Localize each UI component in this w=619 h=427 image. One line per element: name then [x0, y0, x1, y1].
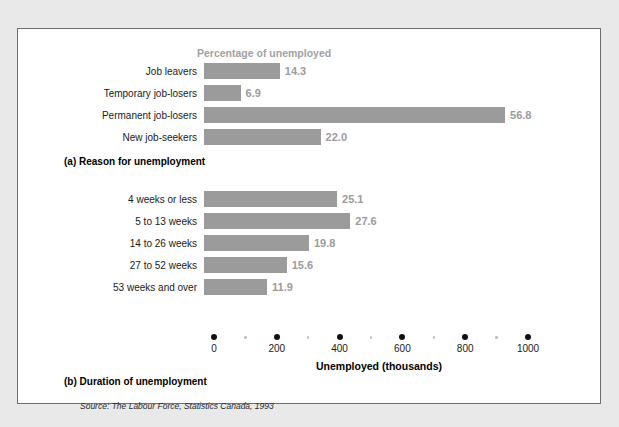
bar-fill: [204, 85, 241, 101]
bar-row: Temporary job-losers6.9: [89, 82, 559, 104]
bar-row: 53 weeks and over11.9: [89, 276, 559, 298]
bar-value-label: 27.6: [350, 213, 376, 229]
reason-label: New job-seekers: [89, 132, 204, 143]
axis-tick-minor: [495, 336, 498, 339]
source-note: Source: The Labour Force, Statistics Can…: [80, 401, 274, 411]
bar-value-label: 56.8: [505, 107, 531, 123]
reason-label: Temporary job-losers: [89, 88, 204, 99]
axis-tick-label: 800: [457, 343, 474, 354]
bar-fill: [204, 107, 505, 123]
duration-label: 4 weeks or less: [89, 194, 204, 205]
axis-tick-minor: [244, 336, 247, 339]
reason-label: Permanent job-losers: [89, 110, 204, 121]
figure-panel: Percentage of unemployed Job leavers14.3…: [17, 28, 601, 404]
axis-tick-label: 0: [211, 343, 217, 354]
bar-fill: [204, 279, 267, 295]
chart-b-duration-of-unemployment: 4 weeks or less25.15 to 13 weeks27.614 t…: [89, 188, 559, 298]
axis-tick-major: [274, 334, 280, 340]
bar-track: 22.0: [204, 126, 559, 148]
bar-row: Permanent job-losers56.8: [89, 104, 559, 126]
axis-tick-major: [462, 334, 468, 340]
bar-fill: [204, 191, 337, 207]
axis-tick-minor: [307, 336, 310, 339]
bar-track: 25.1: [204, 188, 559, 210]
duration-label: 53 weeks and over: [89, 282, 204, 293]
axis-tick-minor: [370, 336, 373, 339]
bar-value-label: 25.1: [337, 191, 363, 207]
bar-fill: [204, 257, 287, 273]
caption-b: (b) Duration of unemployment: [64, 376, 207, 387]
chart-a-reason-for-unemployment: Job leavers14.3Temporary job-losers6.9Pe…: [89, 60, 559, 148]
axis-tick-label: 600: [394, 343, 411, 354]
bar-track: 6.9: [204, 82, 559, 104]
bar-track: 19.8: [204, 232, 559, 254]
axis-tick-major: [211, 334, 217, 340]
bar-fill: [204, 129, 321, 145]
bar-value-label: 11.9: [267, 279, 293, 295]
bar-row: 27 to 52 weeks15.6: [89, 254, 559, 276]
reason-label: Job leavers: [89, 66, 204, 77]
bar-value-label: 15.6: [287, 257, 313, 273]
x-axis-title: Unemployed (thousands): [214, 360, 544, 372]
axis-tick-label: 1000: [517, 343, 539, 354]
axis-tick-major: [525, 334, 531, 340]
bar-row: New job-seekers22.0: [89, 126, 559, 148]
bar-fill: [204, 213, 350, 229]
bar-track: 27.6: [204, 210, 559, 232]
bar-track: 14.3: [204, 60, 559, 82]
bar-value-label: 19.8: [309, 235, 335, 251]
bar-track: 11.9: [204, 276, 559, 298]
axis-tick-label: 200: [268, 343, 285, 354]
axis-tick-minor: [433, 336, 436, 339]
duration-label: 27 to 52 weeks: [89, 260, 204, 271]
caption-a: (a) Reason for unemployment: [64, 156, 205, 167]
bar-row: Job leavers14.3: [89, 60, 559, 82]
bar-track: 15.6: [204, 254, 559, 276]
axis-tick-label: 400: [331, 343, 348, 354]
bar-value-label: 14.3: [280, 63, 306, 79]
bar-row: 14 to 26 weeks19.8: [89, 232, 559, 254]
bar-track: 56.8: [204, 104, 559, 126]
duration-label: 14 to 26 weeks: [89, 238, 204, 249]
bar-value-label: 22.0: [321, 129, 347, 145]
bar-row: 4 weeks or less25.1: [89, 188, 559, 210]
bar-fill: [204, 63, 280, 79]
bar-value-label: 6.9: [241, 85, 261, 101]
duration-label: 5 to 13 weeks: [89, 216, 204, 227]
bar-fill: [204, 235, 309, 251]
axis-tick-major: [399, 334, 405, 340]
percentage-of-unemployed-header: Percentage of unemployed: [197, 47, 331, 59]
axis-tick-major: [337, 334, 343, 340]
bar-row: 5 to 13 weeks27.6: [89, 210, 559, 232]
